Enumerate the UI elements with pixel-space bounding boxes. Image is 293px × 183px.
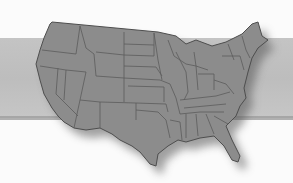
us-map [0, 0, 293, 183]
us-outline [36, 22, 268, 166]
